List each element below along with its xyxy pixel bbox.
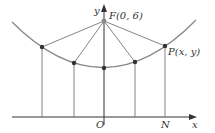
parabola-diagram: y F(0, 6) P(x, y) O N x (0, 0, 215, 133)
point-1 (40, 45, 44, 49)
foot-label: N (160, 119, 171, 130)
focus-label: F(0, 6) (108, 10, 143, 21)
point-2 (72, 61, 76, 65)
point-p (163, 44, 167, 48)
point-p-label: P(x, y) (167, 46, 200, 57)
point-4 (133, 60, 137, 64)
focus-point (102, 19, 107, 24)
y-axis-label: y (93, 5, 100, 16)
vertex-point (102, 66, 106, 70)
origin-label: O (96, 119, 104, 130)
y-axis-arrow-icon (101, 4, 107, 12)
x-axis-label: x (192, 119, 198, 130)
